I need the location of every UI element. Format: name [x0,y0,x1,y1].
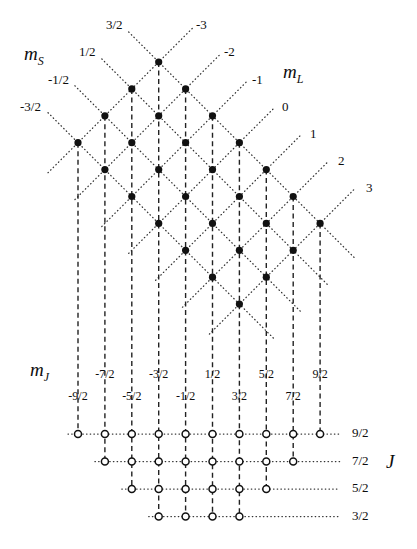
j-state-circle[interactable] [155,431,162,438]
figure-canvas: 3/21/2-1/2-3/2-3-2-10123mSmLmJJ-7/2-3/21… [0,0,417,549]
j-state-circle[interactable] [290,458,297,465]
lattice-state-dot[interactable] [74,139,81,146]
j-state-circle[interactable] [155,458,162,465]
lattice-state-dot[interactable] [155,166,162,173]
lattice-state-dot[interactable] [128,85,135,92]
lattice-state-dot[interactable] [182,247,189,254]
ms-tick-label-3: -3/2 [20,100,41,113]
mj-axis-title: mJ [30,360,49,383]
j-state-circle[interactable] [182,486,189,493]
mj-tick-label-upper-4: 9/2 [312,368,327,380]
ml-constant-line [75,55,220,200]
j-state-circle[interactable] [209,486,216,493]
ml-constant-line [129,109,274,254]
j-state-circle[interactable] [236,458,243,465]
lattice-state-dot[interactable] [263,166,270,173]
j-state-circle[interactable] [101,458,108,465]
lattice-state-dot[interactable] [155,58,162,65]
mj-tick-label-lower-3: 3/2 [232,390,247,402]
j-state-circle[interactable] [209,458,216,465]
mj-tick-label-lower-4: 7/2 [286,390,301,402]
lattice-state-dot[interactable] [209,220,216,227]
j-state-circle[interactable] [155,486,162,493]
j-row-label-3: 3/2 [352,509,369,522]
mj-tick-label-upper-2: 1/2 [205,368,220,380]
lattice-state-dot[interactable] [182,139,189,146]
lattice-state-dot[interactable] [182,193,189,200]
lattice-state-dot[interactable] [209,274,216,281]
lattice-state-dot[interactable] [128,193,135,200]
ms-axis-title-symbol: m [24,43,38,64]
j-state-circle[interactable] [263,486,270,493]
lattice-state-dot[interactable] [101,112,108,119]
j-row-label-0: 9/2 [352,426,369,439]
lattice-state-dot[interactable] [128,139,135,146]
mj-tick-label-lower-0: -9/2 [68,390,87,402]
j-state-circle[interactable] [182,458,189,465]
ms-axis-title: mS [24,44,44,67]
j-state-circle[interactable] [75,431,82,438]
ms-tick-label-1: 1/2 [79,45,96,58]
lattice-state-dot[interactable] [236,301,243,308]
lattice-state-dot[interactable] [101,166,108,173]
lattice-state-dot[interactable] [155,112,162,119]
j-axis-title: J [386,452,394,471]
lattice-state-dot[interactable] [236,139,243,146]
ml-tick-label-2: -1 [252,73,263,86]
ml-axis-title-symbol: m [283,61,297,82]
ml-tick-label-0: -3 [196,18,207,31]
j-state-circle[interactable] [128,431,135,438]
lattice-state-dot[interactable] [236,247,243,254]
ml-constant-line [183,163,328,308]
mj-axis-title-symbol: m [30,359,44,380]
mj-axis-title-subscript: J [44,370,49,384]
lattice-state-dot[interactable] [290,193,297,200]
j-state-circle[interactable] [155,513,162,520]
ms-tick-label-2: -1/2 [48,73,69,86]
ml-axis-title: mL [283,62,303,85]
lattice-state-dot[interactable] [317,220,324,227]
mj-tick-label-upper-3: 5/2 [259,368,274,380]
j-state-circle[interactable] [290,431,297,438]
lattice-state-dot[interactable] [155,220,162,227]
ml-tick-label-5: 2 [338,154,345,167]
ml-constant-line [209,189,354,334]
ml-constant-line [156,136,301,281]
j-state-circle[interactable] [236,431,243,438]
j-state-circle[interactable] [236,513,243,520]
j-state-circle[interactable] [263,458,270,465]
j-state-circle[interactable] [263,431,270,438]
j-state-circle[interactable] [101,431,108,438]
mj-tick-label-upper-0: -7/2 [95,368,114,380]
j-state-circle[interactable] [209,431,216,438]
j-state-circle[interactable] [182,431,189,438]
j-state-circle[interactable] [182,513,189,520]
j-row-label-2: 5/2 [352,481,369,494]
lattice-state-dot[interactable] [209,112,216,119]
ms-axis-title-subscript: S [38,54,44,68]
ml-constant-line [48,28,193,173]
ml-tick-label-3: 0 [282,100,289,113]
j-state-circle[interactable] [128,458,135,465]
j-state-circle[interactable] [236,486,243,493]
lattice-state-dot[interactable] [290,247,297,254]
ms-tick-label-0: 3/2 [106,18,123,31]
j-state-circle[interactable] [209,513,216,520]
j-state-circle[interactable] [317,431,324,438]
ml-constant-line [102,82,247,227]
ml-tick-label-4: 1 [310,127,317,140]
ml-tick-label-1: -2 [224,45,235,58]
mj-tick-label-lower-1: -5/2 [122,390,141,402]
mj-tick-label-upper-1: -3/2 [149,368,168,380]
lattice-state-dot[interactable] [236,193,243,200]
ml-axis-title-subscript: L [297,72,304,86]
lattice-state-dot[interactable] [182,85,189,92]
lattice-state-dot[interactable] [209,166,216,173]
j-row-label-1: 7/2 [352,454,369,467]
ml-tick-label-6: 3 [366,181,373,194]
lattice-state-dot[interactable] [263,220,270,227]
j-state-circle[interactable] [128,486,135,493]
lattice-state-dot[interactable] [263,274,270,281]
mj-tick-label-lower-2: -1/2 [176,390,195,402]
